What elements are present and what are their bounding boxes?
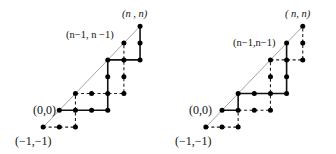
lattice-point xyxy=(105,108,110,113)
left-origin-label: (0,0) xyxy=(33,103,56,117)
lattice-point xyxy=(284,57,289,62)
lattice-point xyxy=(252,91,257,96)
lattice-point xyxy=(268,57,273,62)
lattice-point xyxy=(105,74,110,79)
lattice-point xyxy=(138,24,143,29)
lattice-path-diagram: (0,0) (−1,−1) (n , n) (n−1, n −1) (0,0) … xyxy=(0,0,336,154)
lattice-point xyxy=(105,57,110,62)
lattice-point xyxy=(73,125,78,130)
lattice-point xyxy=(73,108,78,113)
right-origin-label: (0,0) xyxy=(189,103,212,117)
lattice-point xyxy=(268,74,273,79)
lattice-point xyxy=(220,108,225,113)
lattice-point xyxy=(73,91,78,96)
lattice-point xyxy=(300,41,305,46)
lattice-point xyxy=(89,108,94,113)
lattice-point xyxy=(236,108,241,113)
lattice-point xyxy=(121,91,126,96)
lattice-point xyxy=(57,108,62,113)
left-start-label: (−1,−1) xyxy=(15,134,52,148)
lattice-point xyxy=(89,91,94,96)
lattice-point xyxy=(138,41,143,46)
right-start-label: (−1,−1) xyxy=(175,134,212,148)
lattice-point xyxy=(220,125,225,130)
right-end-label: ( n, n) xyxy=(285,8,311,20)
right-penultimate-label: (n−1,n−1) xyxy=(233,37,276,49)
lattice-point xyxy=(203,125,208,130)
lattice-point xyxy=(284,41,289,46)
left-penultimate-label: (n−1, n −1) xyxy=(66,29,114,41)
lattice-point xyxy=(57,125,62,130)
lattice-point xyxy=(284,74,289,79)
lattice-point xyxy=(252,108,257,113)
lattice-point xyxy=(236,91,241,96)
lattice-point xyxy=(138,57,143,62)
lattice-point xyxy=(300,57,305,62)
lattice-point xyxy=(121,57,126,62)
lattice-point xyxy=(268,91,273,96)
lattice-point xyxy=(268,108,273,113)
lattice-point xyxy=(300,24,305,29)
left-end-label: (n , n) xyxy=(122,8,148,20)
lattice-point xyxy=(41,125,46,130)
lattice-point xyxy=(236,125,241,130)
lattice-point xyxy=(284,91,289,96)
lattice-point xyxy=(121,74,126,79)
lattice-point xyxy=(121,41,126,46)
lattice-point xyxy=(105,91,110,96)
